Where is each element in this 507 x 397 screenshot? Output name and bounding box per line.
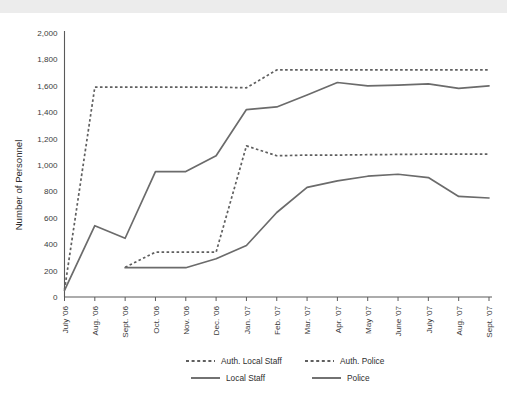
y-tick-label: 800 [44, 187, 58, 196]
y-tick-label: 600 [44, 214, 58, 223]
y-axis: 02004006008001,0001,2001,4001,6001,8002,… [37, 29, 64, 302]
y-tick-label: 400 [44, 240, 58, 249]
series-line-auth-police [125, 146, 489, 267]
x-axis: July '06Aug. '06Sept. '06Oct. '06Nov. '0… [61, 297, 495, 338]
x-tick-label: Aug. '06 [91, 306, 100, 336]
series-line-auth-local-staff [65, 70, 490, 290]
chart-legend: Auth. Local StaffAuth. PoliceLocal Staff… [186, 356, 385, 383]
x-tick-label: Sept. '06 [121, 306, 130, 338]
y-tick-label: 1,200 [37, 135, 58, 144]
y-tick-label: 0 [53, 293, 58, 302]
x-tick-label: Mar. '07 [303, 306, 312, 335]
y-tick-label: 1,400 [37, 108, 58, 117]
x-tick-label: Apr. '07 [334, 306, 343, 334]
x-tick-label: Jan. '07 [243, 306, 252, 335]
series-lines [65, 70, 490, 290]
chart-page: 02004006008001,0001,2001,4001,6001,8002,… [0, 0, 507, 397]
legend-label[interactable]: Auth. Local Staff [221, 356, 282, 366]
x-tick-label: Feb. '07 [273, 306, 282, 335]
legend-label[interactable]: Auth. Police [340, 356, 385, 366]
x-tick-label: Dec. '06 [212, 306, 221, 336]
y-tick-label: 1,600 [37, 82, 58, 91]
x-tick-label: Nov. '06 [182, 306, 191, 335]
chart-svg: 02004006008001,0001,2001,4001,6001,8002,… [0, 0, 507, 397]
y-axis-title: Number of Personnel [13, 140, 24, 231]
x-tick-label: July '06 [61, 306, 70, 334]
legend-label[interactable]: Police [347, 373, 370, 383]
x-tick-label: May '07 [364, 306, 373, 335]
x-tick-label: July '07 [425, 306, 434, 334]
series-line-police [125, 174, 489, 267]
y-tick-label: 200 [44, 267, 58, 276]
x-tick-label: June '07 [394, 306, 403, 337]
series-line-local-staff [65, 83, 490, 291]
x-tick-label: Oct. '06 [152, 306, 161, 334]
line-chart: 02004006008001,0001,2001,4001,6001,8002,… [0, 0, 507, 397]
y-tick-label: 1,800 [37, 55, 58, 64]
x-tick-label: Sept. '07 [485, 306, 494, 338]
legend-label[interactable]: Local Staff [226, 373, 266, 383]
y-tick-label: 2,000 [37, 29, 58, 38]
x-tick-label: Aug. '07 [455, 306, 464, 336]
y-tick-label: 1,000 [37, 161, 58, 170]
